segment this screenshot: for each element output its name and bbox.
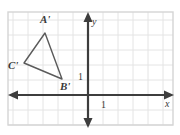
x-axis-unit-label: 1 (101, 100, 106, 110)
vertex-label-b-prime: B' (60, 81, 70, 92)
y-axis-label: y (92, 17, 96, 27)
vertex-label-c-prime: C' (8, 60, 18, 71)
vertex-label-a-prime: A' (40, 14, 50, 25)
coordinate-plane-figure: A' B' C' y x 1 1 (0, 0, 180, 135)
y-axis-unit-label: 1 (78, 72, 83, 82)
coordinate-plane-svg (0, 0, 180, 135)
x-axis-label: x (165, 99, 169, 109)
